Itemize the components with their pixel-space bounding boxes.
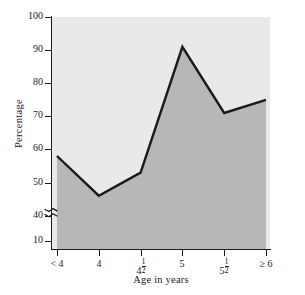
x-axis-tick bbox=[99, 249, 100, 256]
y-axis-tick-label: 90 bbox=[3, 43, 43, 54]
y-axis-tick bbox=[45, 83, 52, 84]
y-axis-title: Percentage bbox=[13, 84, 24, 164]
y-axis-tick bbox=[45, 183, 52, 184]
y-axis-tick bbox=[45, 241, 52, 242]
y-axis-tick bbox=[45, 116, 52, 117]
y-axis-tick bbox=[45, 50, 52, 51]
y-axis-tick bbox=[45, 149, 52, 150]
y-axis-tick-label: 50 bbox=[3, 176, 43, 187]
x-axis-tick bbox=[141, 249, 142, 256]
y-axis-tick bbox=[45, 17, 52, 18]
y-axis-tick-label: 10 bbox=[3, 234, 43, 245]
area-chart-svg bbox=[52, 17, 270, 249]
axis-break-zigzag-icon bbox=[44, 206, 58, 220]
chart-figure: 10090807060504010 Percentage < 444125512… bbox=[0, 0, 305, 295]
y-axis-tick-label: 100 bbox=[3, 10, 43, 21]
y-axis-tick-label: 40 bbox=[3, 209, 43, 220]
x-axis-tick bbox=[182, 249, 183, 256]
x-axis-tick bbox=[266, 249, 267, 256]
x-axis-tick bbox=[57, 249, 58, 256]
x-axis-title: Age in years bbox=[52, 274, 270, 285]
x-axis-tick bbox=[224, 249, 225, 256]
plot-area bbox=[52, 17, 270, 249]
x-axis-line bbox=[51, 249, 271, 250]
x-axis-tick-label: ≥ 6 bbox=[238, 258, 294, 269]
